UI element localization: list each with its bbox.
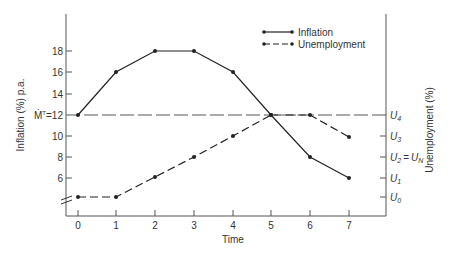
y-tick-16: 16 xyxy=(52,67,64,78)
legend-unemployment-label: Unemployment xyxy=(298,39,365,50)
y-tick-14: 14 xyxy=(52,89,64,100)
y2-axis-label: Unemployment (%) xyxy=(424,87,435,173)
x-tick-0: 0 xyxy=(75,220,81,231)
x-axis-label: Time xyxy=(222,234,244,245)
legend-inflation-label: Inflation xyxy=(298,27,333,38)
y2-tick-u1: U1 xyxy=(390,173,401,185)
x-tick-4: 4 xyxy=(230,220,236,231)
x-tick-2: 2 xyxy=(152,220,158,231)
x-tick-1: 1 xyxy=(113,220,119,231)
x-ticks xyxy=(78,210,349,216)
mt-label: ṀT=12 xyxy=(34,109,63,121)
legend: Inflation Unemployment xyxy=(262,27,365,50)
y2-tick-u3: U3 xyxy=(390,131,401,143)
y2-tick-u0: U0 xyxy=(390,192,401,204)
y-tick-18: 18 xyxy=(52,46,64,57)
x-tick-6: 6 xyxy=(307,220,313,231)
inflation-unemployment-chart: 18 16 14 10 8 6 ṀT=12 0 1 2 3 4 5 6 7 Ti… xyxy=(0,0,453,253)
y2-tick-u2-un: U2=UN xyxy=(390,152,424,164)
y-tick-8: 8 xyxy=(57,152,63,163)
y-tick-10: 10 xyxy=(52,131,64,142)
x-tick-5: 5 xyxy=(268,220,274,231)
x-tick-7: 7 xyxy=(346,220,352,231)
x-tick-3: 3 xyxy=(191,220,197,231)
y-axis-label: Inflation (%) p.a. xyxy=(15,79,26,152)
y-tick-6: 6 xyxy=(57,173,63,184)
y2-ticks xyxy=(380,136,386,197)
y2-tick-u4: U4 xyxy=(390,110,401,122)
